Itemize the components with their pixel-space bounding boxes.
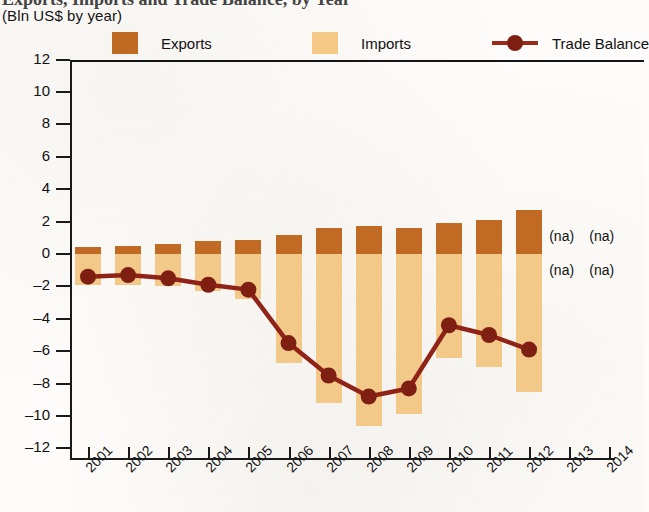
na-annotation: (na): [589, 228, 614, 244]
y-tick: [56, 350, 70, 352]
y-tick-label: 12: [4, 50, 50, 67]
y-tick-label: 8: [4, 114, 50, 131]
y-tick: [56, 285, 70, 287]
legend-label-trade-balance: Trade Balance: [552, 35, 649, 52]
y-tick: [56, 59, 70, 61]
trade-balance-point: [521, 342, 537, 358]
trade-balance-point: [80, 269, 96, 285]
trade-balance-point: [481, 327, 497, 343]
square-swatch-icon: [312, 32, 338, 54]
trade-balance-line: [70, 60, 644, 460]
y-tick: [56, 383, 70, 385]
trade-balance-polyline: [88, 275, 529, 397]
trade-balance-point: [160, 270, 176, 286]
y-tick: [56, 415, 70, 417]
y-tick-label: –10: [4, 406, 50, 423]
trade-balance-point: [401, 380, 417, 396]
y-tick: [56, 253, 70, 255]
trade-balance-point: [321, 368, 337, 384]
trade-balance-point: [200, 277, 216, 293]
trade-balance-point: [240, 282, 256, 298]
y-tick-label: –12: [4, 438, 50, 455]
y-tick-label: –8: [4, 374, 50, 391]
trade-balance-point: [120, 267, 136, 283]
y-tick: [56, 221, 70, 223]
y-tick: [56, 318, 70, 320]
trade-balance-point: [361, 389, 377, 405]
trade-balance-point: [281, 335, 297, 351]
legend-label-imports: Imports: [361, 35, 411, 52]
na-annotation: (na): [589, 262, 614, 278]
y-tick: [56, 91, 70, 93]
y-tick-label: –4: [4, 309, 50, 326]
chart-legend: Exports Imports Trade Balance: [112, 31, 632, 55]
legend-item-imports[interactable]: Imports: [312, 31, 411, 55]
y-tick-label: 0: [4, 244, 50, 261]
y-tick-label: 2: [4, 212, 50, 229]
y-tick-label: 10: [4, 82, 50, 99]
chart-subtitle: (Bln US$ by year): [2, 7, 122, 24]
na-annotation: (na): [549, 228, 574, 244]
y-tick-label: –6: [4, 341, 50, 358]
legend-label-exports: Exports: [161, 35, 212, 52]
line-marker-icon: [492, 32, 538, 54]
legend-item-trade-balance[interactable]: Trade Balance: [492, 31, 649, 55]
legend-item-exports[interactable]: Exports: [112, 31, 212, 55]
trade-balance-point: [441, 317, 457, 333]
plot-area: 121086420–2–4–6–8–10–12 (na)(na)(na)(na)…: [70, 60, 567, 460]
y-tick-label: 4: [4, 179, 50, 196]
y-tick: [56, 188, 70, 190]
square-swatch-icon: [112, 32, 138, 54]
y-tick-label: –2: [4, 276, 50, 293]
y-tick: [56, 447, 70, 449]
y-tick: [56, 156, 70, 158]
y-tick: [56, 123, 70, 125]
y-tick-label: 6: [4, 147, 50, 164]
na-annotation: (na): [549, 262, 574, 278]
